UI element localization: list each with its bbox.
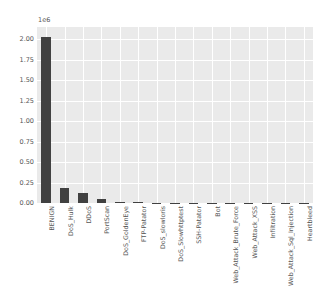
y-axis-tick-label: 1.25 [4, 98, 34, 105]
bar [97, 199, 107, 203]
x-axis-tick-label: Infiltration [270, 206, 276, 239]
y-axis-tick-label: 1.00 [4, 118, 34, 125]
bar [41, 37, 51, 203]
x-axis-tick-label: Web_Attack_Brute_Force [233, 206, 239, 284]
gridline-vertical [249, 27, 250, 203]
x-axis-tick-label: DoS_slowloris [160, 206, 166, 249]
gridline-vertical [285, 27, 286, 203]
gridline-vertical [267, 27, 268, 203]
y-axis-exponent-label: 1e6 [38, 17, 50, 24]
bar [133, 202, 143, 203]
x-axis-tick-label: BENIGN [49, 206, 55, 230]
bar-chart-figure: 1e6 0.000.250.500.751.001.251.501.752.00… [0, 0, 326, 298]
gridline-vertical [304, 27, 305, 203]
y-axis-tick-label: 1.75 [4, 57, 34, 64]
x-axis-tick-label: DoS_Hulk [68, 206, 74, 236]
y-axis-tick-label: 0.00 [4, 200, 34, 207]
gridline-horizontal [37, 203, 313, 204]
x-axis-tick-label: DoS_GoldenEye [123, 206, 129, 256]
gridline-vertical [83, 27, 84, 203]
gridline-vertical [120, 27, 121, 203]
y-axis-tick-label: 0.25 [4, 180, 34, 187]
bar [60, 188, 70, 203]
y-axis-tick-label: 1.50 [4, 77, 34, 84]
x-axis-tick-label: PortScan [104, 206, 110, 234]
y-axis-tick-label: 0.75 [4, 139, 34, 146]
gridline-vertical [138, 27, 139, 203]
y-axis-tick-label: 2.00 [4, 36, 34, 43]
bar [115, 202, 125, 203]
x-axis-tick-label: DDoS [86, 206, 92, 224]
gridline-vertical [175, 27, 176, 203]
x-axis-tick-label: Web_Attack_XSS [252, 206, 258, 258]
x-axis-tick-label: Heartbleed [307, 206, 313, 241]
gridline-vertical [101, 27, 102, 203]
x-axis-tick-label: FTP-Patator [141, 206, 147, 242]
gridline-vertical [193, 27, 194, 203]
x-axis-tick-label: SSH-Patator [196, 206, 202, 244]
y-axis-tick-label: 0.50 [4, 159, 34, 166]
gridline-vertical [65, 27, 66, 203]
gridline-vertical [157, 27, 158, 203]
x-axis-tick-label: DoS_Slowhttptest [178, 206, 184, 262]
x-axis-tick-label: Web_Attack_Sql_Injection [288, 206, 294, 286]
plot-area [37, 27, 313, 203]
bar [78, 193, 88, 203]
gridline-vertical [212, 27, 213, 203]
x-axis-tick-label: Bot [215, 206, 221, 217]
gridline-vertical [230, 27, 231, 203]
